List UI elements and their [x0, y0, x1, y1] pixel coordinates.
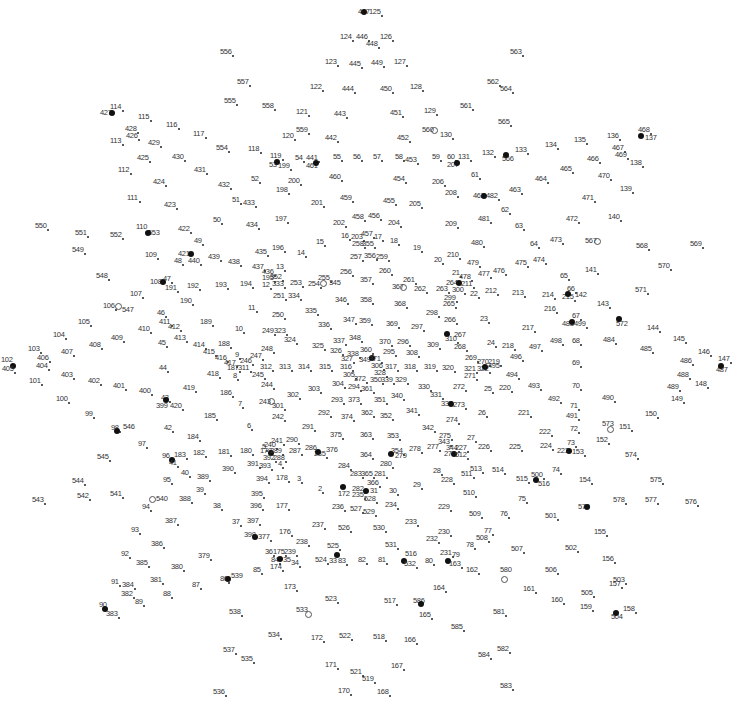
dot-icon — [635, 612, 637, 614]
point-label: 556 — [220, 48, 232, 56]
point-label: 541 — [110, 490, 122, 498]
point-label: 389 — [197, 473, 209, 481]
dot-filled-icon — [340, 484, 346, 490]
point-label: 142 — [575, 291, 587, 299]
point-label: 81 — [378, 556, 386, 564]
dot-icon — [109, 460, 111, 462]
dot-icon — [632, 192, 634, 194]
dot-icon — [417, 525, 419, 527]
point-label: 190 — [180, 297, 192, 305]
point-label: 265 — [443, 300, 455, 308]
dot-icon — [509, 652, 511, 654]
dot-icon — [129, 557, 131, 559]
point-label: 347 — [343, 316, 355, 324]
point-label: 16 — [341, 232, 349, 240]
dot-icon — [150, 510, 152, 512]
dot-icon — [189, 476, 191, 478]
point-label: 402 — [88, 377, 100, 385]
dot-icon — [298, 443, 300, 445]
point-label: 379 — [198, 552, 210, 560]
point-label: 95 — [163, 476, 171, 484]
dot-icon — [421, 452, 423, 454]
point-label: 170 — [338, 687, 350, 695]
point-label: 199 — [278, 162, 290, 170]
dot-icon — [374, 247, 376, 249]
point-label: 581 — [493, 608, 505, 616]
dot-icon — [562, 344, 564, 346]
dot-icon — [584, 455, 586, 457]
point-label: 509 — [469, 510, 481, 518]
dot-icon — [331, 370, 333, 372]
dot-icon — [488, 541, 490, 543]
dot-icon — [182, 409, 184, 411]
point-label: 224 — [540, 442, 552, 450]
dot-icon — [434, 431, 436, 433]
dot-icon — [346, 564, 348, 566]
dot-icon — [186, 458, 188, 460]
dot-icon — [282, 467, 284, 469]
dot-icon — [395, 204, 397, 206]
point-label: 83 — [338, 557, 346, 565]
dot-icon — [163, 547, 165, 549]
point-label: 404 — [36, 362, 48, 370]
point-label: 337 — [333, 337, 345, 345]
point-label: 200 — [288, 177, 300, 185]
dot-icon — [177, 466, 179, 468]
dot-icon — [199, 289, 201, 291]
point-label: 41 — [169, 459, 177, 467]
dot-icon — [392, 92, 394, 94]
point-label: 458 — [352, 213, 364, 221]
dot-icon — [341, 160, 343, 162]
dot-icon — [284, 420, 286, 422]
dot-icon — [489, 372, 491, 374]
dot-icon — [361, 160, 363, 162]
dot-icon — [227, 288, 229, 290]
dot-icon — [648, 249, 650, 251]
dot-icon — [374, 682, 376, 684]
point-label: 61 — [471, 171, 479, 179]
point-label: 51 — [232, 196, 240, 204]
dot-icon — [256, 311, 258, 313]
point-label: 62 — [501, 206, 509, 214]
dot-icon — [290, 169, 292, 171]
dot-icon — [237, 379, 239, 381]
dot-icon — [557, 573, 559, 575]
point-label: 204 — [388, 219, 400, 227]
dot-icon — [148, 566, 150, 568]
dot-icon — [378, 47, 380, 49]
dot-filled-icon — [361, 9, 367, 15]
dot-filled-icon — [638, 133, 644, 139]
point-label: 279 — [395, 452, 407, 460]
point-label: 209 — [445, 220, 457, 228]
dot-icon — [350, 694, 352, 696]
dot-icon — [240, 525, 242, 527]
dot-icon — [580, 344, 582, 346]
dot-icon — [47, 229, 49, 231]
point-label: 221 — [518, 409, 530, 417]
dot-icon — [200, 588, 202, 590]
dot-icon — [296, 590, 298, 592]
dot-icon — [150, 120, 152, 122]
point-label: 486 — [680, 357, 692, 365]
point-label: 370 — [379, 338, 391, 346]
dot-icon — [308, 545, 310, 547]
dot-icon — [574, 300, 576, 302]
dot-icon — [184, 160, 186, 162]
point-label: 201 — [311, 199, 323, 207]
point-label: 350 — [370, 376, 382, 384]
dot-icon — [162, 583, 164, 585]
point-label: 85 — [253, 566, 261, 574]
point-label: 259 — [376, 253, 388, 261]
dot-icon — [178, 128, 180, 130]
point-label: 154 — [579, 476, 591, 484]
dot-icon — [240, 265, 242, 267]
point-label: 134 — [545, 141, 557, 149]
point-label: 381 — [150, 576, 162, 584]
dot-icon — [345, 344, 347, 346]
point-label: 28 — [433, 467, 441, 475]
dot-icon — [560, 473, 562, 475]
point-label: 453 — [405, 156, 417, 164]
point-label: 561 — [460, 102, 472, 110]
point-label: 302 — [287, 391, 299, 399]
dot-icon — [409, 345, 411, 347]
